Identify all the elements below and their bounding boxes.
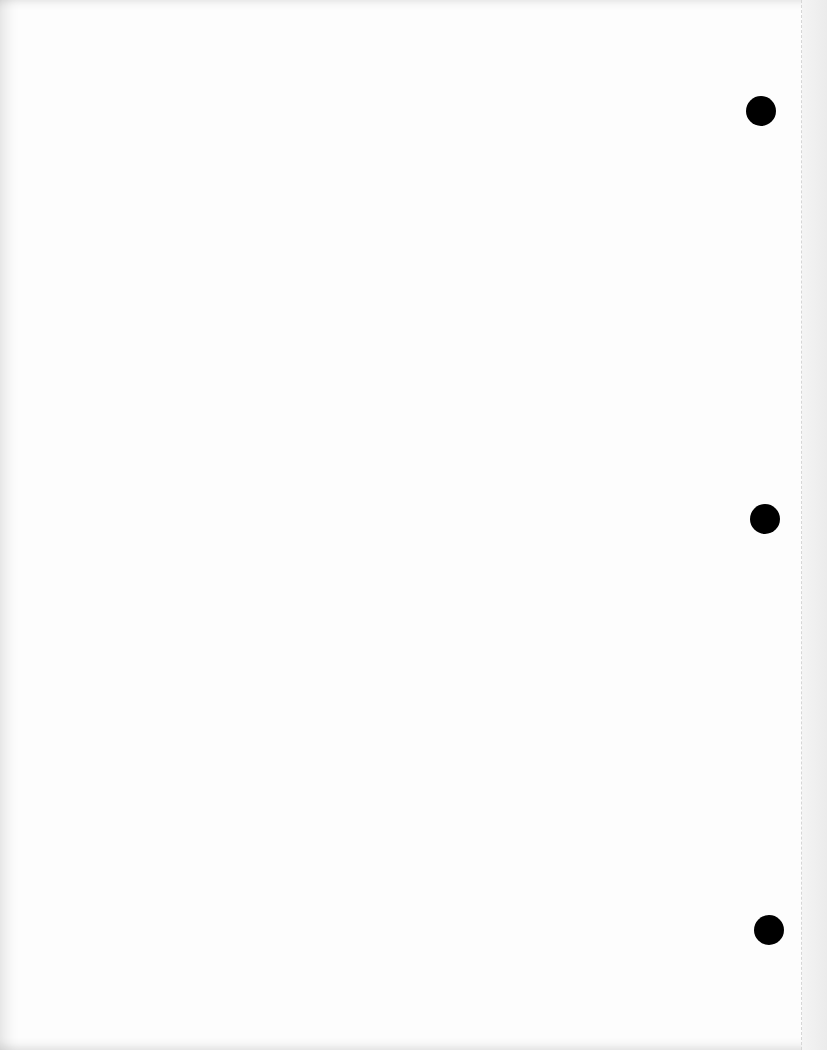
punch-hole-bottom: [754, 915, 784, 945]
punch-hole-middle: [750, 504, 780, 534]
blank-page: [0, 0, 827, 1050]
perforation-line: [801, 0, 802, 1050]
tear-off-strip: [802, 0, 827, 1050]
punch-hole-top: [746, 96, 776, 126]
